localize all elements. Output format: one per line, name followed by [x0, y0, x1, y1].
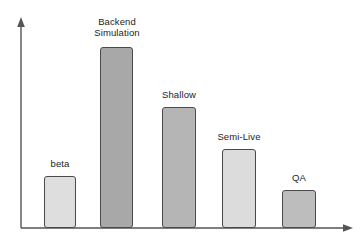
- bar-label-qa: QA: [282, 172, 316, 183]
- bar-semi-live[interactable]: [222, 149, 256, 228]
- bar-label-backend-simulation: Backend Simulation: [89, 16, 145, 38]
- bar-qa[interactable]: [282, 190, 316, 228]
- bar-label-semi-live: Semi-Live: [208, 131, 270, 142]
- bar-shallow[interactable]: [162, 107, 196, 228]
- bar-backend-simulation[interactable]: [100, 47, 133, 228]
- x-axis-arrowhead: [343, 224, 353, 232]
- y-axis-arrowhead: [17, 17, 25, 27]
- bar-label-beta: beta: [38, 158, 82, 169]
- bar-beta[interactable]: [44, 176, 76, 228]
- bar-chart: beta Backend Simulation Shallow Semi-Liv…: [0, 0, 363, 250]
- plot-area: beta Backend Simulation Shallow Semi-Liv…: [0, 0, 363, 250]
- bar-label-shallow: Shallow: [152, 89, 206, 100]
- y-axis: [17, 17, 25, 228]
